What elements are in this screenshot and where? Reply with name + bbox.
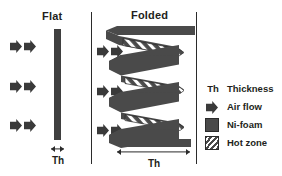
dimension-arrowhead-right-icon <box>60 146 64 152</box>
dimension-arrowhead-left-icon <box>51 146 55 152</box>
dimension-arrowhead-left-icon <box>117 149 121 155</box>
legend-item-hot-zone: Hot zone <box>203 134 282 152</box>
folded-thickness-dimension <box>117 148 190 156</box>
legend-label-thickness: Thickness <box>227 83 273 94</box>
panel-title-flat: Flat <box>42 10 62 22</box>
folded-thickness-label: Th <box>137 158 171 169</box>
legend-item-air-flow: Air flow <box>203 98 282 116</box>
air-flow-arrow-icon <box>206 101 218 114</box>
air-flow-arrow-icon <box>24 119 36 132</box>
folded-ni-foam-accordion <box>103 26 195 148</box>
air-flow-arrow-icon <box>10 119 22 132</box>
panel-title-folded: Folded <box>131 9 168 21</box>
air-flow-arrow-icon <box>24 80 36 93</box>
air-flow-arrow-icon <box>10 80 22 93</box>
legend-key-hot-zone <box>203 134 223 152</box>
legend-key-ni-foam <box>203 116 223 134</box>
flat-thickness-dimension <box>51 145 64 153</box>
legend-key-th-text: Th <box>203 80 223 98</box>
folded-ni-foam-diagram: Flat Th Folded <box>0 0 282 176</box>
dimension-line <box>117 151 190 152</box>
legend-label-ni-foam: Ni-foam <box>227 119 262 130</box>
panel-divider-right <box>196 12 197 164</box>
flat-thickness-label: Th <box>42 155 74 166</box>
fold-segment-bottom <box>121 139 191 147</box>
hatched-square-icon <box>205 136 219 150</box>
legend-label-hot-zone: Hot zone <box>227 137 267 148</box>
air-flow-arrow-icon <box>24 40 36 53</box>
fold-segment-top <box>106 26 195 35</box>
flat-ni-foam-slab <box>54 29 61 140</box>
legend-item-ni-foam: Ni-foam <box>203 116 282 134</box>
legend: Th Thickness Air flow Ni-foam Hot zone <box>203 80 282 152</box>
dimension-arrowhead-right-icon <box>186 149 190 155</box>
th-abbreviation: Th <box>203 80 223 98</box>
panel-divider-left <box>91 12 92 164</box>
legend-item-thickness: Th Thickness <box>203 80 282 98</box>
legend-label-air-flow: Air flow <box>227 101 262 112</box>
solid-square-icon <box>205 118 219 132</box>
legend-key-air-flow <box>203 98 223 116</box>
air-flow-arrow-icon <box>10 40 22 53</box>
